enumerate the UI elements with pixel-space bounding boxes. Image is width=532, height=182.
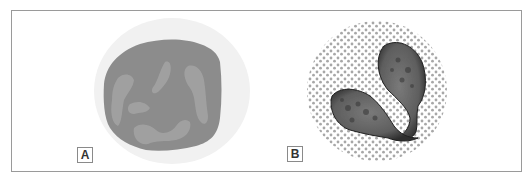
cell-b-granules	[307, 21, 447, 161]
panel-a-cell	[94, 18, 250, 164]
panel-label-b: B	[287, 146, 303, 162]
panel-b-cell	[307, 21, 447, 161]
panel-label-a: A	[77, 147, 93, 163]
